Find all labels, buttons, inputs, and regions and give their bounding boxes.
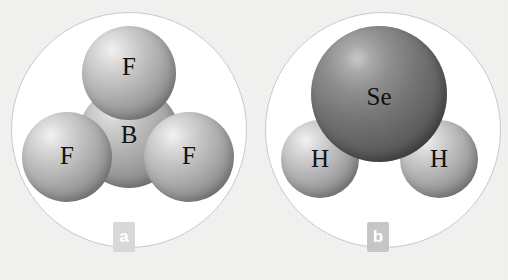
atom-label-fluorine-left: F: [22, 143, 112, 168]
atom-label-fluorine-right: F: [144, 143, 234, 168]
panel-label-badge-a: a: [113, 222, 135, 252]
panel-a-bf3: F B F F a: [0, 0, 254, 280]
molecular-models-figure: F B F F a Se H H b: [0, 0, 508, 280]
panel-label-badge-b: b: [367, 222, 389, 252]
atom-label-fluorine-top: F: [82, 54, 176, 79]
atom-label-selenium: Se: [311, 84, 447, 109]
atom-label-hydrogen-left: H: [281, 146, 359, 171]
panel-b-h2se: Se H H b: [254, 0, 508, 280]
atom-label-hydrogen-right: H: [400, 146, 478, 171]
